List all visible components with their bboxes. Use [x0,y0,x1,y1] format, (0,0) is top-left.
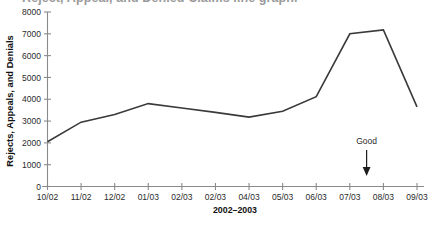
y-axis-tick-label: 4000 [22,94,41,104]
y-axis: 010002000300040005000600070008000 [22,7,51,192]
x-axis-tick-label: 12/02 [104,192,126,202]
y-axis-title-text: Rejects, Appeals, and Denials [5,35,15,166]
figure-title-text: Reject, Appeal, and Denied Claims line g… [0,0,431,5]
y-axis-tick-labels: 010002000300040005000600070008000 [22,7,41,192]
y-axis-tick-label: 5000 [22,73,41,83]
x-axis-title-text: 2002–2003 [213,205,257,215]
y-axis-title: Rejects, Appeals, and Denials [5,35,15,166]
x-axis-tick-label: 10/02 [37,192,59,202]
y-axis-tick-label: 3000 [22,116,41,126]
y-axis-tick-label: 1000 [22,160,41,170]
annotation-label: Good [356,136,377,146]
x-axis-tick-label: 11/02 [71,192,92,202]
x-axis-tick-label: 04/03 [238,192,260,202]
x-axis-tick-labels: 10/0211/0212/0201/0302/0302/0304/0305/03… [37,192,428,202]
x-axis-tick-label: 07/03 [339,192,361,202]
good-annotation: Good [356,136,377,176]
figure-title-clipped: Reject, Appeal, and Denied Claims line g… [0,0,431,5]
x-axis-tick-label: 02/03 [205,192,227,202]
x-axis-tick-label: 02/03 [171,192,193,202]
chart-canvas: 010002000300040005000600070008000 10/021… [0,0,431,225]
y-axis-tick-label: 2000 [22,138,41,148]
y-axis-tick-label: 8000 [22,7,41,17]
y-axis-tick-label: 7000 [22,29,41,39]
x-axis: 10/0211/0212/0201/0302/0302/0304/0305/03… [37,183,428,202]
x-axis-tick-label: 08/03 [373,192,395,202]
down-arrow-icon-head [363,167,371,176]
data-series-line [48,30,418,142]
line-chart-figure: Reject, Appeal, and Denied Claims line g… [0,0,431,225]
y-axis-tick-label: 6000 [22,51,41,61]
x-axis-tick-label: 01/03 [138,192,160,202]
y-axis-tick-label: 0 [36,182,41,192]
x-axis-tick-label: 09/03 [406,192,428,202]
x-axis-tick-label: 06/03 [306,192,328,202]
x-axis-tick-label: 05/03 [272,192,294,202]
